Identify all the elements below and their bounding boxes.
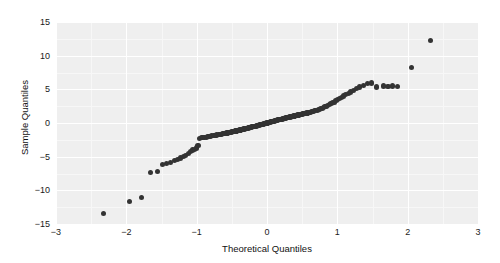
y-tick-label: 15: [40, 18, 50, 27]
x-tick-label: −2: [121, 228, 131, 237]
gridline-vertical: [478, 22, 479, 224]
qq-plot-figure: 151050−5−10−15 −3−2−10123 Theoretical Qu…: [0, 0, 500, 263]
y-tick-label: 10: [40, 51, 50, 60]
scatter-point: [374, 84, 379, 89]
y-tick-label: −15: [35, 220, 50, 229]
gridline-horizontal: [56, 224, 478, 225]
scatter-point: [148, 170, 153, 175]
y-tick-label: 5: [45, 85, 50, 94]
y-tick-label: 0: [45, 119, 50, 128]
scatter-point: [101, 211, 106, 216]
y-tick-label: −5: [40, 152, 50, 161]
scatter-point: [395, 84, 400, 89]
x-axis-tick-labels: −3−2−10123: [56, 228, 478, 240]
scatter-point: [428, 38, 433, 43]
scatter-point: [127, 199, 132, 204]
scatter-point: [195, 143, 200, 148]
scatter-point: [139, 195, 144, 200]
x-tick-label: 2: [405, 228, 410, 237]
x-tick-label: 0: [264, 228, 269, 237]
x-tick-label: −3: [51, 228, 61, 237]
plot-panel: [56, 22, 478, 224]
x-tick-label: −1: [192, 228, 202, 237]
scatter-point: [155, 169, 160, 174]
x-axis-title: Theoretical Quantiles: [56, 243, 478, 254]
x-tick-label: 1: [335, 228, 340, 237]
y-axis-title: Sample Quantiles: [19, 48, 30, 188]
scatter-point: [409, 65, 414, 70]
scatter-points-layer: [56, 22, 478, 224]
y-tick-label: −10: [35, 186, 50, 195]
x-tick-label: 3: [475, 228, 480, 237]
